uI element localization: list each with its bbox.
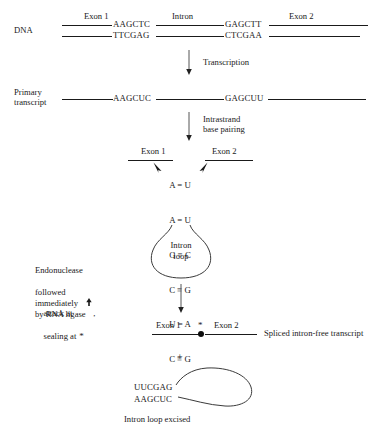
endonuclease-note-line4: immediately	[35, 298, 78, 309]
dna-top-strand-exon1-line	[62, 25, 112, 26]
dna-top-strand-right-sequence: GAGCTT	[225, 19, 262, 29]
dna-bottom-strand-intron-line	[156, 36, 224, 37]
primary-transcript-line-middle	[156, 99, 224, 100]
primary-transcript-right-sequence: GAGCUU	[225, 93, 264, 103]
dna-bottom-strand-exon1-line	[62, 36, 112, 37]
splicing-diagram: DNA Exon 1 Intron Exon 2 AAGCTC GAGCTT T…	[0, 0, 382, 435]
excised-top-sequence: UUCGAG	[134, 382, 173, 392]
intron-loop-label-line1: Intron	[148, 240, 214, 251]
ligase-seal-star: *	[79, 331, 84, 341]
base-pair-row: A = U	[160, 180, 200, 192]
spliced-exon2-label: Exon 2	[214, 320, 239, 331]
intron-loop-label-line2: loop	[148, 251, 214, 262]
primary-transcript-row-label-line1: Primary	[14, 87, 42, 98]
endonuclease-note-line6: sealing at*	[35, 320, 84, 352]
endonuclease-note-line1: Endonuclease	[35, 265, 83, 276]
dna-top-strand-left-sequence: AAGCTC	[113, 19, 150, 29]
spliced-transcript-caption: Spliced intron-free transcript	[264, 328, 363, 339]
primary-transcript-line-left	[62, 99, 113, 100]
primary-transcript-line-right	[268, 99, 366, 100]
pairing-exon1-label: Exon 1	[141, 146, 166, 157]
excised-loop-caption: Intron loop excised	[124, 414, 190, 425]
endonuclease-note-line6-text: sealing at	[44, 331, 77, 341]
pairing-exon2-label: Exon 2	[212, 146, 237, 157]
spliced-exon1-label: Exon 1	[156, 320, 181, 331]
base-pairing-arrow-icon	[186, 112, 198, 142]
dna-top-strand-exon2-line	[269, 25, 368, 26]
transcription-arrow-icon	[186, 50, 198, 76]
dna-row-label: DNA	[14, 25, 33, 36]
dna-bottom-strand-right-sequence: CTCGAA	[225, 30, 262, 40]
primary-transcript-left-sequence: AAGCUC	[113, 93, 151, 103]
dna-exon2-label: Exon 2	[289, 11, 314, 22]
spliced-exon1-line	[152, 334, 201, 335]
endonuclease-note-line2-tail: ,	[93, 308, 95, 318]
plus-sign: +	[177, 352, 183, 362]
base-pairing-label-line1: Intrastrand	[203, 114, 240, 125]
base-pairing-label-line2: base pairing	[203, 124, 245, 135]
endonuclease-cut-arrow-left-icon	[152, 160, 164, 174]
dna-bottom-strand-exon2-line	[269, 36, 360, 37]
endonuclease-note-line5: by RNA ligase	[35, 309, 86, 320]
dna-bottom-strand-left-sequence: TTCGAG	[113, 30, 150, 40]
primary-transcript-row-label-line2: transcript	[14, 97, 46, 108]
endonuclease-cut-arrow-right-icon	[197, 160, 209, 174]
excised-loop-shape	[175, 366, 261, 408]
excised-bottom-sequence: AAGCUC	[134, 394, 172, 404]
pairing-exon2-line	[205, 160, 253, 161]
endonuclease-note-line3: followed	[35, 287, 66, 298]
dna-intron-label: Intron	[172, 11, 193, 22]
transcription-label: Transcription	[203, 57, 249, 68]
spliced-exon2-line	[205, 334, 257, 335]
dna-exon1-label: Exon 1	[84, 11, 109, 22]
spliced-junction-star: *	[198, 321, 203, 330]
spliced-junction-dot	[198, 331, 204, 337]
splicing-arrow-icon	[178, 284, 190, 314]
dna-top-strand-intron-line	[156, 25, 224, 26]
